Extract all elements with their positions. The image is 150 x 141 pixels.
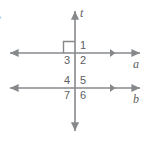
figure-canvas bbox=[0, 0, 150, 141]
angle-label-7: 7 bbox=[64, 90, 70, 101]
angle-label-1: 1 bbox=[80, 40, 86, 51]
edge-bullet-mark: • bbox=[0, 12, 1, 23]
line-label-t: t bbox=[80, 7, 83, 19]
line-a-inner-arrowhead bbox=[110, 49, 116, 57]
line-label-b: b bbox=[133, 93, 139, 105]
geometry-figure: • t a b 1 2 3 4 5 6 7 bbox=[0, 0, 150, 141]
angle-label-3: 3 bbox=[64, 55, 70, 66]
angle-label-6: 6 bbox=[80, 90, 86, 101]
line-label-a: a bbox=[133, 58, 139, 70]
angle-label-4: 4 bbox=[64, 75, 70, 86]
line-b-inner-arrowhead bbox=[110, 84, 116, 92]
right-angle-marker bbox=[64, 42, 76, 54]
angle-label-2: 2 bbox=[80, 55, 86, 66]
angle-label-5: 5 bbox=[80, 75, 86, 86]
